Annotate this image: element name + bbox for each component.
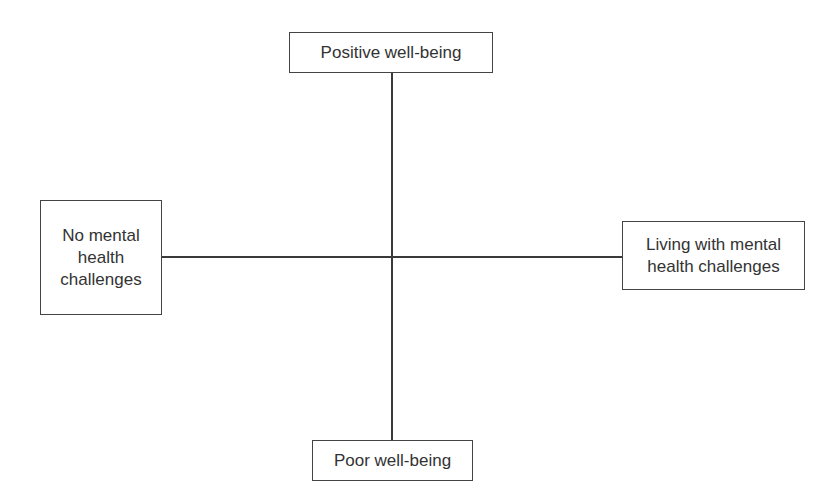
no-mental-health-challenges-box: No mental health challenges [40, 200, 162, 315]
positive-well-being-label: Positive well-being [321, 42, 462, 64]
poor-well-being-box: Poor well-being [312, 440, 473, 481]
horizontal-axis-line [162, 256, 622, 258]
living-with-mental-health-challenges-box: Living with mental health challenges [622, 221, 805, 290]
poor-well-being-label: Poor well-being [334, 450, 451, 472]
positive-well-being-box: Positive well-being [289, 32, 493, 73]
no-mental-health-challenges-label: No mental health challenges [60, 225, 141, 291]
living-with-mental-health-challenges-label: Living with mental health challenges [646, 234, 781, 278]
